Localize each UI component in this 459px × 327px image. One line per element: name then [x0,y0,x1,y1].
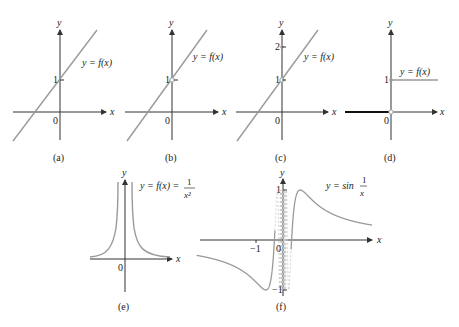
fraction-denominator: x [359,188,364,198]
caption: (c) [275,152,286,164]
y-tick-1: 1 [53,74,58,85]
fraction-numerator: 1 [362,175,367,185]
y-tick-2: 2 [275,41,280,52]
caption: (a) [53,152,64,164]
y-axis-label: y [278,17,284,28]
panel-b: y x 1 0 y = f(x) (b) [125,17,227,164]
caption: (d) [384,152,396,164]
y-axis-label: y [121,167,127,178]
y-axis-label: y [56,17,62,28]
y-axis-label: y [387,17,393,28]
x-axis-label: x [376,234,382,245]
origin-label: 0 [275,115,280,126]
y-tick-1: 1 [165,74,170,85]
x-axis-label: x [439,106,445,117]
panel-d: y x 1 0 y = f(x) (d) [345,17,445,164]
figure-canvas: y x 1 0 y = f(x) (a) y x 1 0 y = f(x) (b… [0,0,459,327]
curve-left [90,182,118,257]
fraction-numerator: 1 [187,177,192,187]
y-tick-1: 1 [384,74,389,85]
origin-label: 0 [165,115,170,126]
curve-right [132,182,170,257]
x-axis-label: x [175,253,181,264]
function-label: y = f(x) [81,57,113,69]
origin-label: 0 [118,262,123,273]
y-axis-label: y [279,167,285,178]
origin-label: 0 [384,115,389,126]
function-label: y = f(x) [399,66,431,78]
function-label: y = f(x) = [139,180,179,192]
panel-f: y x 1 −1 −1 0 y = sin 1 x (f) [197,167,382,313]
origin-label: 0 [53,115,58,126]
caption: (f) [276,301,286,313]
function-label: y = sin [325,180,354,191]
x-tick-minus-1: −1 [250,243,261,254]
open-circle [170,78,174,82]
function-label: y = f(x) [192,51,224,63]
fraction-denominator: x² [183,190,191,200]
caption: (b) [165,152,177,164]
panel-e: y x 0 y = f(x) = 1 x² (e) [90,167,195,313]
x-axis-label: x [221,106,227,117]
y-tick-1: 1 [275,74,280,85]
caption: (e) [118,301,129,313]
panel-a: y x 1 0 y = f(x) (a) [13,17,115,164]
y-axis-label: y [168,17,174,28]
filled-point [389,78,393,82]
x-axis-label: x [331,106,337,117]
origin-label: 0 [276,243,281,254]
open-circle [389,110,393,114]
panel-c: y x 1 2 0 y = f(x) (c) [236,17,337,164]
function-label: y = f(x) [303,51,335,63]
y-tick-1: 1 [276,184,281,195]
x-axis-label: x [109,106,115,117]
y-tick-minus-1: −1 [272,284,283,295]
